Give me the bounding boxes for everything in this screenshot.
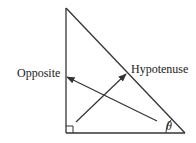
theta-label: θ bbox=[166, 119, 172, 133]
opposite-label: Opposite bbox=[17, 66, 60, 80]
hypotenuse-label: Hypotenuse bbox=[131, 62, 188, 76]
arrow-to-opposite bbox=[67, 77, 157, 121]
right-triangle-diagram: Opposite Hypotenuse θ bbox=[0, 0, 196, 143]
right-angle-marker bbox=[66, 126, 73, 133]
arrow-to-hypotenuse bbox=[76, 74, 126, 122]
